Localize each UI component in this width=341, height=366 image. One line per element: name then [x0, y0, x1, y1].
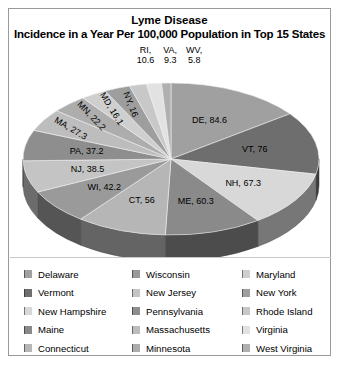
- legend-swatch-icon: [132, 344, 140, 352]
- legend-label: Minnesota: [146, 343, 190, 354]
- legend-swatch-icon: [24, 289, 32, 297]
- legend-item: Maine: [10, 321, 118, 340]
- legend-label: Connecticut: [38, 343, 89, 354]
- legend-label: Maryland: [256, 269, 295, 280]
- legend-swatch-icon: [242, 326, 250, 334]
- chart-legend: DelawareWisconsinMarylandVermontNew Jers…: [10, 261, 331, 355]
- legend-label: New Hampshire: [38, 306, 106, 317]
- legend-item: New York: [228, 284, 331, 303]
- legend-item: Massachusetts: [118, 321, 228, 340]
- legend-swatch-icon: [242, 344, 250, 352]
- legend-item: Delaware: [10, 265, 118, 284]
- pie-slice-label: WI, 42.2: [88, 182, 122, 192]
- legend-swatch-icon: [132, 326, 140, 334]
- legend-swatch-icon: [132, 307, 140, 315]
- legend-label: Maine: [38, 324, 64, 335]
- legend-swatch-icon: [24, 326, 32, 334]
- legend-item: West Virginia: [228, 339, 331, 358]
- legend-swatch-icon: [242, 307, 250, 315]
- legend-item: Maryland: [228, 265, 331, 284]
- legend-item: Virginia: [228, 321, 331, 340]
- chart-frame: Lyme Disease Incidence in a Year Per 100…: [8, 8, 331, 356]
- chart-title: Lyme Disease: [9, 14, 330, 27]
- legend-label: Delaware: [38, 269, 79, 280]
- legend-label: Vermont: [38, 287, 74, 298]
- legend-divider: [10, 257, 331, 258]
- pie-slice-label: NJ, 38.5: [71, 164, 105, 174]
- pie-slice-label: CT, 56: [129, 195, 155, 205]
- legend-item: New Jersey: [118, 284, 228, 303]
- legend-swatch-icon: [24, 344, 32, 352]
- pie-slice-label: DE, 84.6: [192, 115, 227, 125]
- legend-swatch-icon: [242, 270, 250, 278]
- legend-label: Massachusetts: [146, 324, 210, 335]
- pie-slice-label: PA, 37.2: [70, 146, 104, 156]
- legend-item: Rhode Island: [228, 302, 331, 321]
- legend-label: Pennsylvania: [146, 306, 203, 317]
- legend-swatch-icon: [24, 270, 32, 278]
- legend-label: New York: [256, 287, 297, 298]
- legend-item: Connecticut: [10, 339, 118, 358]
- pie-chart: DE, 84.6VT, 76NH, 67.3ME, 60.3CT, 56WI, …: [9, 37, 330, 257]
- pie-slices: [23, 83, 319, 235]
- legend-label: Wisconsin: [146, 269, 190, 280]
- pie-slice-label: NH, 67.3: [225, 178, 261, 188]
- legend-swatch-icon: [24, 307, 32, 315]
- legend-swatch-icon: [132, 270, 140, 278]
- legend-swatch-icon: [132, 289, 140, 297]
- pie-slice-label: VT, 76: [242, 144, 268, 154]
- legend-item: Wisconsin: [118, 265, 228, 284]
- legend-item: New Hampshire: [10, 302, 118, 321]
- legend-label: West Virginia: [256, 343, 312, 354]
- legend-item: Vermont: [10, 284, 118, 303]
- legend-item: Pennsylvania: [118, 302, 228, 321]
- legend-swatch-icon: [242, 289, 250, 297]
- legend-label: Virginia: [256, 324, 288, 335]
- legend-item: Minnesota: [118, 339, 228, 358]
- legend-label: Rhode Island: [256, 306, 313, 317]
- pie-slice-label: ME, 60.3: [178, 196, 214, 206]
- legend-label: New Jersey: [146, 287, 196, 298]
